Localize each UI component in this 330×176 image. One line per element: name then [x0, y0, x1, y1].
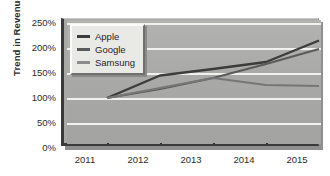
- x-tick-label: 2015: [286, 154, 307, 165]
- y-axis-ticks: 250% 200% 150% 100% 50% 0%: [0, 18, 56, 150]
- x-tick-mark: [160, 143, 162, 144]
- legend-item-google: Google: [77, 43, 135, 56]
- x-tick-label: 2014: [233, 154, 254, 165]
- x-tick-label: 2013: [180, 154, 201, 165]
- x-tick-mark: [266, 143, 268, 144]
- x-tick-label: 2011: [75, 154, 95, 165]
- plot-area: Apple Google Samsung: [61, 18, 323, 150]
- x-tick-mark: [107, 143, 109, 144]
- legend-swatch-icon: [77, 48, 90, 51]
- legend: Apple Google Samsung: [70, 24, 145, 75]
- y-tick-label: 50%: [4, 117, 56, 128]
- x-axis-ticks: 2011 2012 2013 2014 2015: [61, 152, 323, 172]
- line-chart: Trend in Revenue 250% 200% 150% 100% 50%…: [0, 0, 330, 176]
- y-tick-label: 250%: [4, 17, 56, 28]
- y-tick-label: 0%: [4, 142, 56, 153]
- legend-swatch-icon: [77, 61, 90, 64]
- legend-item-apple: Apple: [77, 30, 135, 43]
- legend-label: Google: [95, 43, 126, 56]
- legend-item-samsung: Samsung: [77, 56, 135, 69]
- y-tick-label: 100%: [4, 92, 56, 103]
- series-line-samsung: [107, 78, 319, 98]
- y-tick-label: 200%: [4, 42, 56, 53]
- y-tick-label: 150%: [4, 67, 56, 78]
- x-tick-label: 2012: [127, 154, 148, 165]
- legend-label: Apple: [95, 30, 119, 43]
- x-tick-mark: [213, 143, 215, 144]
- legend-label: Samsung: [95, 56, 135, 69]
- legend-swatch-icon: [77, 35, 90, 38]
